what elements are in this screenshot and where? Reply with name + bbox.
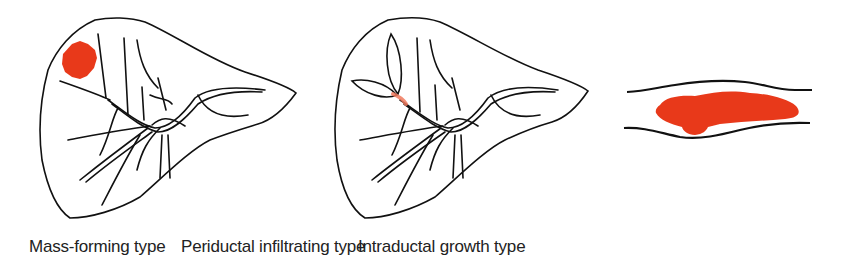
bile-duct-intraductal-illustration [600, 0, 852, 230]
caption-intraductal-growth: Intraductal growth type [358, 237, 525, 257]
caption-periductal-infiltrating: Periductal infiltrating type [181, 237, 365, 257]
periductal-infiltration [393, 94, 406, 104]
liver-periductal-illustration [300, 0, 600, 230]
caption-mass-forming: Mass-forming type [29, 237, 165, 257]
liver-outline [335, 18, 588, 218]
intraductal-tumor [656, 92, 799, 135]
duct-wall-upper [627, 81, 812, 92]
periductal-infiltrating-panel [300, 0, 600, 230]
duct-wall-lower [624, 123, 810, 138]
tumor-mass [62, 41, 97, 79]
intraductal-growth-panel [600, 0, 852, 230]
mass-forming-panel [0, 0, 300, 230]
liver-mass-forming-illustration [0, 0, 300, 230]
